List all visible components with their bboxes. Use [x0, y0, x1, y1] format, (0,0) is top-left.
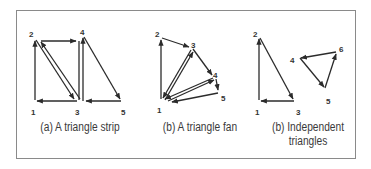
- vertex-label: 2: [155, 30, 160, 39]
- edge-2-3: [162, 38, 189, 47]
- caption-triangle-fan: (b) A triangle fan: [149, 120, 251, 134]
- vertex-label: 5: [221, 94, 226, 103]
- vertex-label: 5: [326, 97, 331, 106]
- triangle-primitives-figure: 1 2 3 4 5 1 2 3 4 5: [0, 0, 371, 169]
- vertex-label: 2: [253, 30, 258, 39]
- edge-4-5: [300, 58, 324, 87]
- vertex-label: 4: [213, 71, 218, 80]
- edge-3-4: [193, 49, 212, 75]
- caption-independent-line1: (b) Independent: [266, 120, 351, 134]
- edge-3-1: [163, 50, 191, 98]
- vertex-label: 3: [75, 108, 80, 117]
- triangle-strip-diagram: [35, 37, 121, 101]
- fan-vertex-labels: 1 2 3 4 5: [155, 30, 226, 115]
- edge-4-5: [216, 79, 218, 90]
- edge-6-4: [301, 52, 336, 58]
- vertex-label: 3: [191, 41, 196, 50]
- edge-5-1: [172, 93, 218, 102]
- edge-5-6: [325, 54, 336, 88]
- independent-triangles-diagram: [259, 38, 336, 101]
- caption-triangle-strip: (a) A triangle strip: [29, 120, 131, 134]
- vertex-label: 1: [255, 108, 260, 117]
- vertex-label: 1: [31, 108, 36, 117]
- vertex-label: 2: [29, 30, 34, 39]
- vertex-label: 4: [80, 28, 85, 37]
- vertex-label: 5: [121, 108, 126, 117]
- edge-3-2: [41, 42, 80, 99]
- edge-4-5: [84, 37, 120, 99]
- vertex-label: 6: [339, 45, 344, 54]
- triangle-fan-diagram: [161, 38, 218, 102]
- vertex-label: 4: [290, 56, 295, 65]
- edge-2-3: [36, 40, 74, 99]
- caption-independent-line2: triangles: [266, 134, 351, 148]
- vertex-label: 3: [296, 108, 301, 117]
- edge-2-3: [260, 38, 293, 99]
- vertex-label: 1: [157, 106, 162, 115]
